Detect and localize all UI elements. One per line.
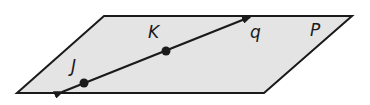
plane-diagram xyxy=(0,0,370,105)
point-k xyxy=(162,47,171,56)
label-k: K xyxy=(148,24,159,41)
plane-p xyxy=(17,16,352,93)
label-p: P xyxy=(310,22,320,39)
label-q: q xyxy=(250,24,261,41)
point-j xyxy=(80,79,89,88)
label-j: J xyxy=(71,58,76,75)
